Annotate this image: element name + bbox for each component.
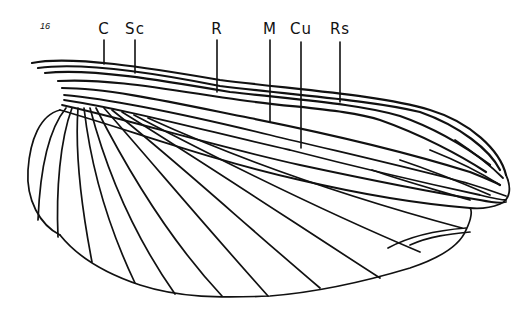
label-subcosta: Sc — [125, 20, 145, 38]
wing-drawing — [0, 0, 531, 317]
figure-number: 16 — [40, 21, 50, 31]
label-radius: R — [211, 20, 222, 38]
label-cubitus: Cu — [290, 20, 312, 38]
label-radial-sector: Rs — [330, 20, 350, 38]
wing-figure: 16 C Sc R M Cu Rs — [0, 0, 531, 317]
label-media: M — [263, 20, 277, 38]
hindwing-fan — [28, 108, 471, 297]
label-costa: C — [98, 20, 109, 38]
